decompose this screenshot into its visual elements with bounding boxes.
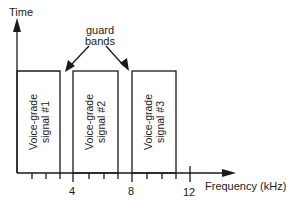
tick-label-4: 4 bbox=[69, 186, 75, 197]
arrowhead-right-icon bbox=[120, 58, 129, 71]
signal-2-line1: Voice-grade bbox=[83, 77, 95, 167]
tick-label-8: 8 bbox=[128, 186, 134, 197]
guard-band-arrow-left bbox=[70, 46, 89, 66]
y-axis-label: Time bbox=[9, 7, 33, 18]
y-axis-arrowhead-icon bbox=[13, 18, 21, 32]
signal-3-line1: Voice-grade bbox=[142, 77, 154, 167]
x-axis-label: Frequency (kHz) bbox=[205, 181, 286, 192]
annotation-bands: bands bbox=[85, 36, 115, 47]
signal-box-3-label: Voice-grade signal #3 bbox=[142, 77, 166, 167]
x-axis-arrowhead-icon bbox=[222, 169, 236, 177]
signal-1-line2: signal #1 bbox=[39, 77, 51, 167]
signal-3-line2: signal #3 bbox=[154, 77, 166, 167]
signal-box-2-label: Voice-grade signal #2 bbox=[83, 77, 107, 167]
x-axis-ticks bbox=[32, 166, 190, 182]
signal-1-line1: Voice-grade bbox=[27, 77, 39, 167]
signal-box-1-label: Voice-grade signal #1 bbox=[27, 77, 51, 167]
tick-label-12: 12 bbox=[183, 187, 195, 198]
signal-2-line2: signal #2 bbox=[95, 77, 107, 167]
